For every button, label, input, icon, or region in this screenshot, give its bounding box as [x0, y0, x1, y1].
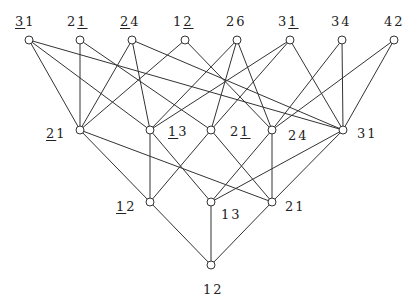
- node-label-m5: 31: [357, 126, 378, 141]
- node-label-m2: 13: [168, 124, 189, 139]
- edge-t6-m2: [150, 40, 290, 130]
- edge-t7-m5: [342, 40, 343, 130]
- node-label-t6: 31: [278, 14, 299, 29]
- edge-m5-b2: [211, 130, 343, 202]
- node-label-m4: 24: [288, 128, 309, 143]
- node-label-r: 12: [203, 282, 224, 297]
- node-b2: [207, 198, 215, 206]
- edge-t6-m5: [290, 40, 343, 130]
- node-t7: [338, 36, 346, 44]
- node-label-m3: 21: [230, 124, 251, 139]
- edge-t8-m4: [272, 40, 394, 130]
- node-label-t4: 12: [173, 14, 194, 29]
- node-label-t8: 42: [384, 14, 405, 29]
- edge-t1-m5: [29, 40, 343, 130]
- edge-t3-m2: [132, 40, 150, 130]
- node-t1: [25, 36, 33, 44]
- node-t8: [390, 36, 398, 44]
- edges: [29, 40, 394, 265]
- edge-t4-m4: [185, 40, 272, 130]
- node-b3: [268, 198, 276, 206]
- node-label-t1: 31: [15, 14, 36, 29]
- node-label-m1: 21: [46, 126, 67, 141]
- node-t5: [233, 36, 241, 44]
- node-m3: [207, 126, 215, 134]
- node-label-t7: 34: [331, 14, 352, 29]
- node-t2: [76, 36, 84, 44]
- node-m5: [339, 126, 347, 134]
- node-m4: [268, 126, 276, 134]
- edge-t1-m1: [29, 40, 80, 130]
- node-m1: [76, 126, 84, 134]
- edge-m1-b1: [80, 130, 150, 202]
- edge-t2-m3: [80, 40, 211, 130]
- node-label-t2: 21: [67, 14, 88, 29]
- node-label-b2: 13: [221, 207, 242, 222]
- edge-t5-m4: [237, 40, 272, 130]
- node-label-b1: 12: [116, 199, 137, 214]
- node-t6: [286, 36, 294, 44]
- node-r: [207, 261, 215, 269]
- node-label-b3: 21: [285, 199, 306, 214]
- node-t3: [128, 36, 136, 44]
- node-b1: [146, 198, 154, 206]
- edge-m1-b3: [80, 130, 272, 202]
- node-label-t5: 26: [226, 14, 247, 29]
- node-t4: [181, 36, 189, 44]
- edge-t8-m5: [343, 40, 394, 130]
- node-m2: [146, 126, 154, 134]
- edge-t3-m1: [80, 40, 132, 130]
- edge-t6-m3: [211, 40, 290, 130]
- edge-t7-m4: [272, 40, 342, 130]
- node-label-t3: 24: [120, 14, 141, 29]
- edge-b1-r: [150, 202, 211, 265]
- lattice-diagram: [0, 0, 417, 303]
